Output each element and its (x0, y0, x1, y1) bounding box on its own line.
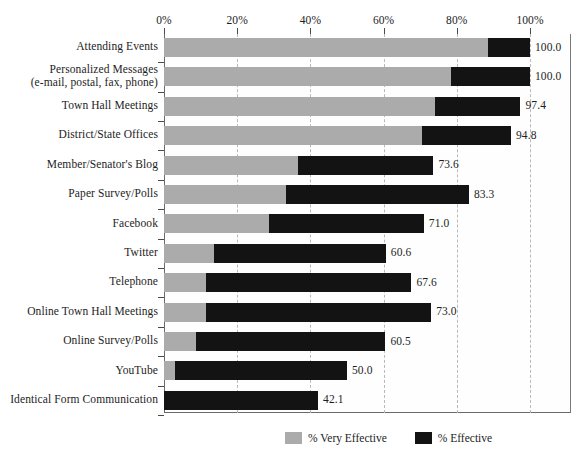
chart-container: 0%20%40%60%80%100% Attending EventsPerso… (0, 0, 581, 465)
y-axis-category-label: Paper Survey/Polls (0, 187, 158, 200)
bar-segment-very-effective (164, 156, 298, 175)
bar-segment-very-effective (164, 214, 269, 233)
bar-segment-very-effective (164, 67, 451, 86)
legend-item-very-effective: % Very Effective (285, 432, 387, 444)
gridline (457, 34, 458, 413)
bar-value-label: 42.1 (323, 393, 344, 405)
y-axis-category-label: Telephone (0, 275, 158, 288)
y-axis-category-label: Attending Events (0, 40, 158, 53)
bar-value-label: 94.8 (516, 129, 537, 141)
y-tick-mark (158, 239, 164, 240)
legend-swatch-very-effective (285, 432, 302, 444)
bar-value-label: 73.0 (436, 305, 457, 317)
bar-segment-very-effective (164, 273, 206, 292)
y-axis-category-label: District/State Offices (0, 128, 158, 141)
x-tick-label: 40% (300, 14, 321, 26)
bar-value-label: 50.0 (352, 364, 373, 376)
y-tick-mark (158, 62, 164, 63)
bar-segment-very-effective (164, 38, 488, 57)
bar-segment-very-effective (164, 244, 214, 263)
y-tick-mark (158, 356, 164, 357)
bar-segment-very-effective (164, 303, 206, 322)
legend-item-effective: % Effective (415, 432, 492, 444)
y-tick-mark (158, 297, 164, 298)
y-axis-category-label: Personalized Messages (e-mail, postal, f… (0, 63, 158, 88)
x-tick-label: 80% (446, 14, 467, 26)
y-axis-category-label: Member/Senator's Blog (0, 158, 158, 171)
bar-segment-effective (206, 303, 431, 322)
legend-label-effective: % Effective (438, 432, 492, 444)
bar-segment-effective (206, 273, 411, 292)
bar-value-label: 97.4 (525, 99, 546, 111)
bar-segment-effective (422, 126, 511, 145)
gridline (530, 34, 531, 413)
y-tick-mark (158, 327, 164, 328)
bar-value-label: 73.6 (438, 158, 459, 170)
bar-segment-very-effective (164, 332, 196, 351)
y-tick-mark (158, 386, 164, 387)
bar-segment-effective (196, 332, 385, 351)
y-tick-mark (158, 209, 164, 210)
bar-value-label: 83.3 (474, 188, 495, 200)
x-tick-label: 0% (156, 14, 172, 26)
bar-segment-effective (298, 156, 433, 175)
bar-value-label: 100.0 (535, 41, 561, 53)
bar-segment-effective (435, 97, 521, 116)
bar-segment-effective (286, 185, 469, 204)
bar-value-label: 60.5 (390, 335, 411, 347)
chart-legend: % Very Effective % Effective (285, 432, 492, 444)
legend-label-very-effective: % Very Effective (308, 432, 387, 444)
bar-value-label: 60.6 (391, 246, 412, 258)
y-axis-category-label: YouTube (0, 364, 158, 377)
y-axis-category-label: Identical Form Communication (0, 393, 158, 406)
bar-segment-very-effective (164, 361, 175, 380)
bar-value-label: 100.0 (535, 70, 561, 82)
y-tick-mark (158, 268, 164, 269)
y-tick-mark (158, 121, 164, 122)
y-tick-mark (158, 415, 164, 416)
y-axis-category-label: Online Survey/Polls (0, 334, 158, 347)
y-axis-category-label: Online Town Hall Meetings (0, 305, 158, 318)
bar-segment-very-effective (164, 126, 422, 145)
bar-value-label: 71.0 (429, 217, 450, 229)
bar-segment-effective (214, 244, 386, 263)
bar-segment-effective (451, 67, 530, 86)
y-axis-category-label: Twitter (0, 246, 158, 259)
legend-swatch-effective (415, 432, 432, 444)
bar-segment-effective (175, 361, 347, 380)
x-tick-label: 60% (373, 14, 394, 26)
bar-segment-effective (164, 391, 318, 410)
x-tick-label: 100% (516, 14, 543, 26)
y-tick-mark (158, 150, 164, 151)
bar-segment-effective (488, 38, 530, 57)
bar-segment-very-effective (164, 97, 435, 116)
y-tick-mark (158, 92, 164, 93)
y-axis-category-label: Facebook (0, 217, 158, 230)
bar-segment-effective (269, 214, 423, 233)
y-tick-mark (158, 180, 164, 181)
bar-segment-very-effective (164, 185, 286, 204)
x-tick-label: 20% (226, 14, 247, 26)
y-axis-category-label: Town Hall Meetings (0, 99, 158, 112)
bar-value-label: 67.6 (416, 276, 437, 288)
